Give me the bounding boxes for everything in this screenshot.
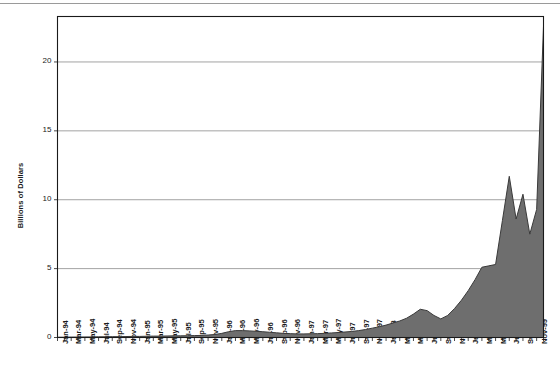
area-fill [58, 26, 544, 337]
plot-area [0, 0, 560, 390]
chart-figure: Billions of Dollars 05101520 Jan-94Mar-9… [0, 0, 560, 390]
data-area-series [58, 26, 544, 337]
grid-lines [58, 62, 544, 269]
